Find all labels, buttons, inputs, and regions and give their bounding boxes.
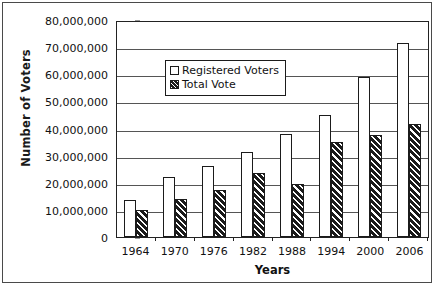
chart-frame: Number of Voters 010,000,00020,000,00030… — [2, 2, 432, 283]
x-axis-tick-label: 1988 — [273, 245, 312, 258]
bar-group — [311, 22, 350, 237]
bar-registered-voters[interactable] — [163, 177, 175, 237]
bar-group — [195, 22, 234, 237]
bar-groups — [117, 22, 428, 237]
bar-registered-voters[interactable] — [202, 166, 214, 237]
bar-registered-voters[interactable] — [124, 200, 136, 237]
bar-registered-voters[interactable] — [358, 77, 370, 237]
y-axis-tick-label: 20,000,000 — [45, 177, 108, 190]
x-axis-tick-label: 1982 — [233, 245, 272, 258]
y-axis-tick-label: 0 — [101, 232, 108, 245]
legend-item-registered-voters: Registered Voters — [170, 64, 279, 78]
bar-registered-voters[interactable] — [397, 43, 409, 237]
bar-total-vote[interactable] — [214, 190, 226, 237]
x-axis-tick-labels: 19641970197619821988199420002006 — [116, 245, 429, 258]
bar-group — [273, 22, 312, 237]
bar-group — [234, 22, 273, 237]
legend-item-total-vote: Total Vote — [170, 78, 279, 92]
y-axis-tick-label: 60,000,000 — [45, 69, 108, 82]
y-axis-tick-label: 30,000,000 — [45, 150, 108, 163]
legend-swatch-total-vote-icon — [170, 80, 179, 89]
bar-registered-voters[interactable] — [241, 152, 253, 237]
bar-group — [389, 22, 428, 237]
bar-total-vote[interactable] — [409, 124, 421, 237]
bar-registered-voters[interactable] — [319, 115, 331, 237]
y-axis-tick-label: 70,000,000 — [45, 42, 108, 55]
chart-legend: Registered Voters Total Vote — [165, 60, 286, 96]
bar-total-vote[interactable] — [370, 135, 382, 237]
bar-group — [156, 22, 195, 237]
y-axis-tick-labels: 010,000,00020,000,00030,000,00040,000,00… — [27, 15, 112, 243]
chart-figure: Number of Voters 010,000,00020,000,00030… — [0, 0, 437, 292]
y-axis-tick-label: 40,000,000 — [45, 123, 108, 136]
bar-total-vote[interactable] — [136, 210, 148, 237]
bar-group — [117, 22, 156, 237]
bar-group — [350, 22, 389, 237]
legend-label-total-vote: Total Vote — [182, 78, 236, 92]
bar-total-vote[interactable] — [175, 199, 187, 237]
bar-total-vote[interactable] — [292, 184, 304, 237]
legend-label-registered-voters: Registered Voters — [182, 64, 279, 78]
bar-total-vote[interactable] — [253, 173, 265, 237]
y-axis-tick-label: 50,000,000 — [45, 96, 108, 109]
x-axis-tick-label: 2000 — [351, 245, 390, 258]
x-axis-tick-label: 1964 — [116, 245, 155, 258]
x-axis-title: Years — [116, 263, 429, 277]
x-axis-tick-label: 1976 — [194, 245, 233, 258]
legend-swatch-registered-voters-icon — [170, 66, 179, 75]
y-axis-tick-label: 80,000,000 — [45, 15, 108, 28]
bar-registered-voters[interactable] — [280, 134, 292, 237]
bar-total-vote[interactable] — [331, 142, 343, 237]
x-axis-tick-label: 1970 — [155, 245, 194, 258]
plot-area — [116, 21, 429, 238]
x-axis-tick-label: 1994 — [312, 245, 351, 258]
x-axis-tick-label: 2006 — [390, 245, 429, 258]
y-axis-tick-label: 10,000,000 — [45, 204, 108, 217]
